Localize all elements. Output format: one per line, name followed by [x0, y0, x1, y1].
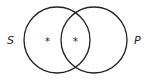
- label-p: P: [134, 34, 141, 47]
- label-s: S: [7, 34, 14, 47]
- circle-s: [24, 7, 90, 73]
- venn-diagram: S P * *: [0, 0, 152, 81]
- circle-p: [61, 7, 127, 73]
- mark-s-only: *: [45, 36, 50, 47]
- mark-s-and-p: *: [73, 36, 78, 47]
